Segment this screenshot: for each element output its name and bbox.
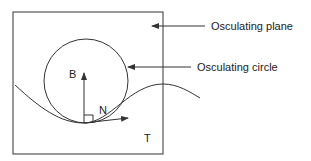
label-b: B — [69, 68, 76, 80]
osculating-diagram: B N T Osculating plane Osculating circle — [0, 0, 311, 161]
osculating-plane-rect — [13, 12, 163, 154]
label-t: T — [144, 132, 151, 144]
tangent-vector — [84, 118, 128, 123]
label-n: N — [99, 104, 107, 116]
label-osculating-plane: Osculating plane — [211, 20, 293, 32]
osculating-circle — [44, 39, 128, 123]
label-osculating-circle: Osculating circle — [197, 61, 278, 73]
